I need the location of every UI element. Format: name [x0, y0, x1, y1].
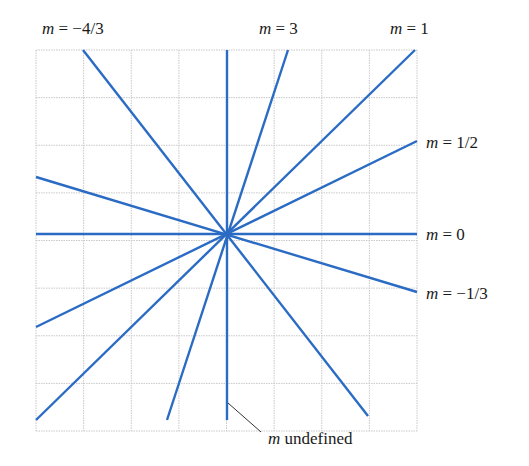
- label-m-3: m = 3: [259, 20, 298, 37]
- label-m-neg-4-3: m = −4/3: [42, 20, 104, 37]
- label-m-0: m = 0: [426, 226, 465, 243]
- label-m-undefined: m undefined: [268, 430, 353, 447]
- label-m-neg-1-3: m = −1/3: [426, 285, 488, 302]
- leader-line: [228, 403, 261, 432]
- slope-lines: [36, 50, 417, 420]
- label-m-1: m = 1: [390, 20, 429, 37]
- label-m-1-2: m = 1/2: [426, 134, 478, 151]
